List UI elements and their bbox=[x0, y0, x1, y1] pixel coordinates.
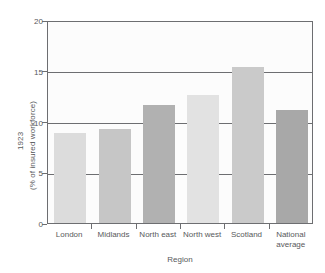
bar bbox=[187, 95, 219, 223]
x-axis-tick-mark bbox=[91, 224, 92, 229]
x-axis-tick-label: National average bbox=[269, 230, 313, 250]
bars-layer bbox=[48, 22, 312, 223]
x-axis-tick-label: North west bbox=[180, 230, 224, 240]
bar bbox=[99, 129, 131, 223]
plot-area bbox=[47, 21, 313, 224]
bar bbox=[54, 133, 86, 223]
bar-chart: 1923 (% of insured workforce) 05101520 L… bbox=[0, 0, 325, 273]
y-axis-title-line-1: 1923 bbox=[16, 132, 25, 150]
x-axis-tick-label: London bbox=[47, 230, 91, 240]
bar bbox=[276, 110, 308, 223]
x-axis-tick-mark bbox=[269, 224, 270, 229]
bar bbox=[143, 105, 175, 223]
x-axis-tick-label: North east bbox=[136, 230, 180, 240]
x-axis-tick-mark bbox=[180, 224, 181, 229]
x-axis-tick-mark bbox=[224, 224, 225, 229]
x-axis-tick-label: Scotland bbox=[224, 230, 268, 240]
x-axis-title: Region bbox=[47, 255, 313, 264]
x-axis-tick-marks bbox=[47, 224, 313, 229]
y-axis-title: 1923 (% of insured workforce) bbox=[0, 0, 34, 226]
x-axis-tick-mark bbox=[136, 224, 137, 229]
bar bbox=[232, 67, 264, 223]
x-axis-tick-label: Midlands bbox=[91, 230, 135, 240]
